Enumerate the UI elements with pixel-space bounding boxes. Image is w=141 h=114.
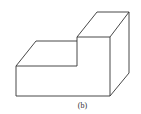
front-face-outline — [16, 37, 110, 96]
low-top-face — [16, 41, 77, 66]
tall-top-face — [77, 12, 129, 37]
stepped-block-drawing — [0, 0, 141, 114]
figure-caption: (b) — [0, 101, 141, 110]
